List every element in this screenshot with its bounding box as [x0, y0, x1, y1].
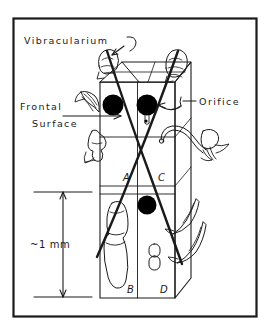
figure-container: Vibracularium Frontal Surface Orifice ~1… [0, 0, 269, 333]
label-cell-c: C [158, 172, 165, 183]
label-frontal-surface-line2: Surface [32, 118, 78, 129]
orifice-lower-front [138, 196, 157, 215]
label-cell-b: B [127, 284, 134, 295]
label-vibracularium: Vibracularium [24, 35, 108, 46]
label-cell-a: A [122, 172, 130, 183]
label-cell-d: D [160, 284, 168, 295]
label-scale-bar: ~1 mm [30, 239, 70, 250]
bryozoan-diagram-svg: Vibracularium Frontal Surface Orifice ~1… [0, 0, 269, 333]
label-orifice: Orifice [199, 96, 240, 107]
operculum-dot [144, 119, 147, 122]
label-frontal-surface-line1: Frontal [20, 101, 62, 112]
orifice-left-front [103, 95, 124, 116]
